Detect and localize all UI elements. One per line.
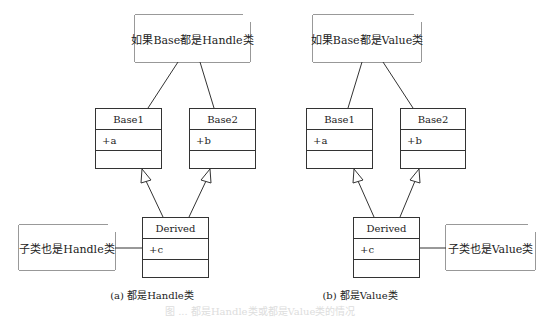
class-base1-left: Base1 +a [95, 108, 162, 169]
class-name: Base2 [401, 109, 465, 130]
class-operations [190, 151, 255, 170]
note-subclass-handle: 子类也是Handle类 [19, 225, 115, 270]
class-name: Base2 [190, 109, 255, 130]
caption-a: (a) 都是Handle类 [110, 287, 194, 302]
note-if-base-value: 如果Base都是Value类 [313, 15, 421, 62]
class-derived-right: Derived +c [353, 217, 420, 278]
class-name: Derived [354, 218, 419, 239]
class-operations [96, 151, 161, 170]
note-if-base-handle: 如果Base都是Handle类 [135, 15, 250, 62]
class-operations [143, 260, 208, 279]
class-attribute: +b [401, 130, 465, 151]
class-attribute: +a [96, 130, 161, 151]
class-base1-right: Base1 +a [306, 108, 373, 169]
class-derived-left: Derived +c [142, 217, 209, 278]
class-attribute: +c [143, 239, 208, 260]
class-operations [307, 151, 372, 170]
class-name: Base1 [96, 109, 161, 130]
class-name: Derived [143, 218, 208, 239]
class-base2-right: Base2 +b [400, 108, 466, 169]
class-attribute: +c [354, 239, 419, 260]
class-name: Base1 [307, 109, 372, 130]
class-attribute: +a [307, 130, 372, 151]
class-attribute: +b [190, 130, 255, 151]
caption-b: (b) 都是Value类 [322, 287, 397, 302]
class-base2-left: Base2 +b [189, 108, 256, 169]
class-operations [401, 151, 465, 170]
figure-caption-partial: 图 ... 都是Handle类或都是Value类的情况 [165, 303, 355, 318]
class-operations [354, 260, 419, 279]
note-subclass-value: 子类也是Value类 [446, 225, 535, 270]
